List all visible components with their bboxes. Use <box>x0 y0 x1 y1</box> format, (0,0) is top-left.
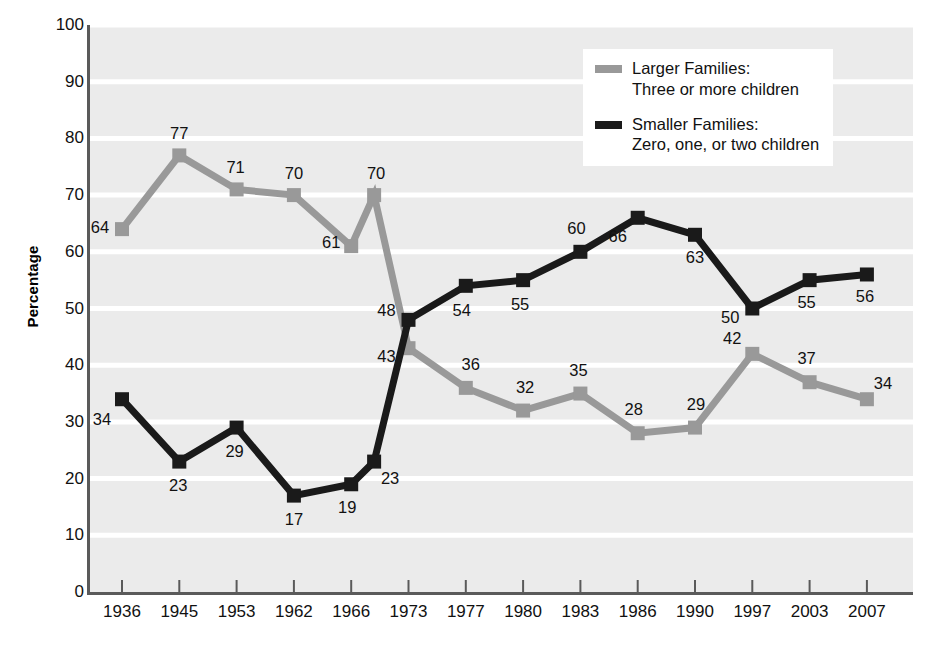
y-tick-label: 70 <box>38 186 84 203</box>
data-label: 50 <box>721 308 739 325</box>
data-label: 55 <box>511 296 529 313</box>
y-tick-label: 30 <box>38 413 84 430</box>
legend-label: Larger Families: Three or more children <box>632 58 799 100</box>
data-point-marker <box>172 455 186 469</box>
data-label: 63 <box>686 249 704 266</box>
data-point-marker <box>344 239 358 253</box>
legend-label: Smaller Families: Zero, one, or two chil… <box>632 114 819 156</box>
data-label: 34 <box>93 411 111 428</box>
x-tick-label: 1945 <box>160 603 198 620</box>
data-point-marker <box>230 421 244 435</box>
data-label: 56 <box>856 288 874 305</box>
data-point-marker <box>573 245 587 259</box>
data-label: 29 <box>225 442 243 459</box>
x-tick-label: 2003 <box>791 603 829 620</box>
data-label: 64 <box>91 219 109 236</box>
data-label: 48 <box>377 302 395 319</box>
data-label: 71 <box>226 159 244 176</box>
data-point-marker <box>344 477 358 491</box>
y-axis-tick-labels: 1009080706050403020100 <box>28 0 84 645</box>
data-label: 28 <box>625 401 643 418</box>
y-tick-label: 80 <box>38 129 84 146</box>
y-tick-label: 0 <box>38 583 84 600</box>
legend-item: Larger Families: Three or more children <box>595 58 819 100</box>
y-tick-label: 50 <box>38 300 84 317</box>
data-point-marker <box>230 182 244 196</box>
data-label: 29 <box>687 395 705 412</box>
data-label: 35 <box>569 361 587 378</box>
x-tick-label: 1997 <box>733 603 771 620</box>
x-tick-label: 2007 <box>848 603 886 620</box>
data-label: 23 <box>169 476 187 493</box>
series-larger-families <box>115 148 874 440</box>
data-label: 66 <box>609 228 627 245</box>
x-tick-label: 1936 <box>103 603 141 620</box>
data-label: 77 <box>170 125 188 142</box>
data-point-marker <box>860 267 874 281</box>
x-tick-label: 1986 <box>619 603 657 620</box>
data-label: 32 <box>516 378 534 395</box>
data-label: 36 <box>462 356 480 373</box>
data-point-marker <box>688 421 702 435</box>
data-point-marker <box>516 404 530 418</box>
line-chart: Percentage 1009080706050403020100 193619… <box>0 0 933 645</box>
legend: Larger Families: Three or more childrenS… <box>583 49 833 166</box>
data-label: 55 <box>797 294 815 311</box>
y-tick-label: 60 <box>38 243 84 260</box>
data-point-marker <box>287 489 301 503</box>
data-point-marker <box>860 392 874 406</box>
data-label: 19 <box>338 499 356 516</box>
data-point-marker <box>367 188 381 202</box>
legend-item: Smaller Families: Zero, one, or two chil… <box>595 114 819 156</box>
data-label: 70 <box>367 165 385 182</box>
data-point-marker <box>367 455 381 469</box>
data-label: 60 <box>567 220 585 237</box>
data-point-marker <box>803 375 817 389</box>
data-point-marker <box>631 211 645 225</box>
data-point-marker <box>402 313 416 327</box>
data-point-marker <box>115 222 129 236</box>
data-label: 34 <box>874 375 892 392</box>
data-label: 42 <box>723 330 741 347</box>
y-tick-label: 10 <box>38 526 84 543</box>
x-tick-label: 1953 <box>218 603 256 620</box>
data-point-marker <box>459 279 473 293</box>
data-point-marker <box>516 273 530 287</box>
data-point-marker <box>172 148 186 162</box>
x-tick-label: 1983 <box>561 603 599 620</box>
y-axis-line <box>87 25 90 594</box>
data-point-marker <box>745 302 759 316</box>
data-point-marker <box>803 273 817 287</box>
x-axis-line <box>87 592 913 595</box>
data-point-marker <box>287 188 301 202</box>
data-label: 43 <box>377 348 395 365</box>
data-label: 37 <box>797 350 815 367</box>
x-tick-label: 1966 <box>332 603 370 620</box>
x-tick-label: 1977 <box>447 603 485 620</box>
data-point-marker <box>631 426 645 440</box>
data-label: 61 <box>322 234 340 251</box>
y-tick-label: 100 <box>38 16 84 33</box>
legend-swatch-icon <box>595 65 622 73</box>
data-point-marker <box>115 392 129 406</box>
x-tick-label: 1962 <box>275 603 313 620</box>
data-point-marker <box>573 387 587 401</box>
data-point-marker <box>688 228 702 242</box>
data-label: 17 <box>285 510 303 527</box>
data-label: 23 <box>381 469 399 486</box>
x-tick-label: 1990 <box>676 603 714 620</box>
x-axis-tick-labels: 1936194519531962196619731977198019831986… <box>90 603 913 635</box>
y-tick-label: 90 <box>38 73 84 90</box>
y-tick-label: 20 <box>38 470 84 487</box>
data-label: 54 <box>453 302 471 319</box>
y-tick-label: 40 <box>38 356 84 373</box>
x-tick-label: 1980 <box>504 603 542 620</box>
legend-swatch-icon <box>595 121 622 129</box>
data-point-marker <box>459 381 473 395</box>
data-label: 70 <box>285 165 303 182</box>
data-point-marker <box>745 347 759 361</box>
x-tick-label: 1973 <box>390 603 428 620</box>
